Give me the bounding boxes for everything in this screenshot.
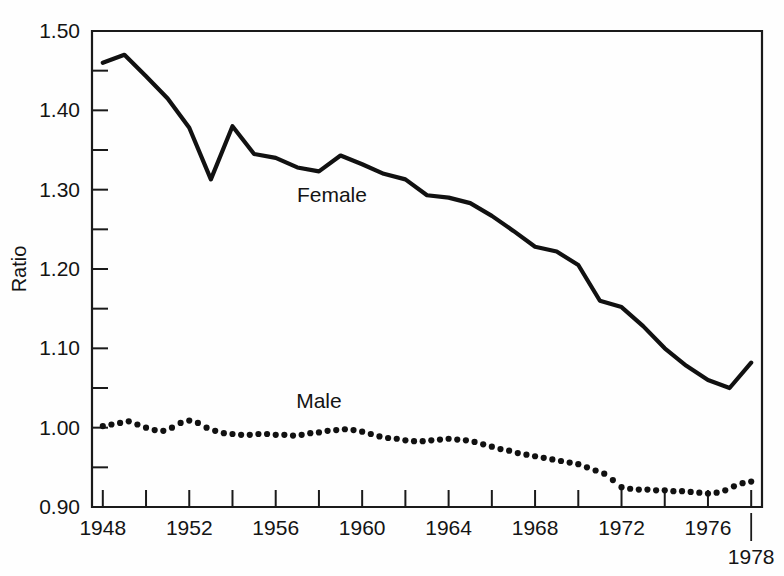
data-point: [446, 436, 452, 442]
data-point: [688, 489, 694, 495]
data-point: [255, 431, 261, 437]
data-point: [722, 487, 728, 493]
data-point: [506, 448, 512, 454]
x-axis-labels: 19481952195619601964196819721976: [79, 516, 731, 539]
data-point: [100, 423, 106, 429]
data-point: [420, 438, 426, 444]
data-point: [290, 433, 296, 439]
data-point: [368, 431, 374, 437]
series-line-female: [103, 55, 751, 388]
data-point: [644, 486, 650, 492]
data-point: [489, 444, 495, 450]
data-point: [748, 479, 754, 485]
x-tick-label: 1960: [339, 516, 386, 539]
data-point: [454, 436, 460, 442]
data-point: [299, 432, 305, 438]
x-tick-label: 1952: [166, 516, 213, 539]
data-point: [662, 487, 668, 493]
series-annotations: FemaleMale: [296, 183, 367, 412]
data-point: [376, 433, 382, 439]
data-point: [731, 483, 737, 489]
data-point: [714, 490, 720, 496]
series-annotation-female: Female: [297, 183, 367, 206]
data-point: [186, 417, 192, 423]
data-point: [195, 420, 201, 426]
data-point: [307, 430, 313, 436]
data-point: [497, 446, 503, 452]
data-series-layer: [100, 55, 755, 497]
data-point: [394, 436, 400, 442]
series-annotation-male: Male: [296, 389, 342, 412]
x-tick-label: 1976: [685, 516, 732, 539]
data-point: [169, 425, 175, 431]
data-point: [532, 453, 538, 459]
y-tick-label: 0.90: [39, 495, 80, 518]
data-point: [705, 490, 711, 496]
axis-frame: [92, 31, 762, 507]
data-point: [428, 437, 434, 443]
data-point: [567, 459, 573, 465]
data-point: [316, 429, 322, 435]
data-point: [739, 480, 745, 486]
data-point: [549, 456, 555, 462]
data-point: [523, 452, 529, 458]
data-point: [618, 484, 624, 490]
data-point: [584, 464, 590, 470]
x-tick-label: 1948: [79, 516, 126, 539]
y-tick-label: 1.20: [39, 257, 80, 280]
data-point: [627, 486, 633, 492]
ratio-line-chart: 0.901.001.101.201.301.401.50 19481952195…: [0, 0, 784, 576]
y-tick-label: 1.30: [39, 178, 80, 201]
data-point: [679, 488, 685, 494]
data-point: [696, 490, 702, 496]
data-point: [558, 458, 564, 464]
data-point: [134, 421, 140, 427]
data-point: [402, 437, 408, 443]
data-point: [117, 420, 123, 426]
data-point: [160, 428, 166, 434]
y-tick-label: 1.40: [39, 98, 80, 121]
data-point: [653, 487, 659, 493]
x-axis-outer-label: 1978: [728, 513, 775, 568]
data-point: [411, 438, 417, 444]
x-outer-label: 1978: [728, 545, 775, 568]
data-point: [247, 432, 253, 438]
data-point: [350, 427, 356, 433]
data-point: [342, 426, 348, 432]
x-tick-label: 1968: [512, 516, 559, 539]
data-point: [212, 428, 218, 434]
data-point: [203, 425, 209, 431]
series-dots-male: [100, 417, 755, 496]
data-point: [471, 439, 477, 445]
data-point: [515, 450, 521, 456]
data-point: [333, 427, 339, 433]
data-point: [636, 486, 642, 492]
data-point: [601, 471, 607, 477]
data-point: [108, 421, 114, 427]
chart-page: 0.901.001.101.201.301.401.50 19481952195…: [0, 0, 784, 576]
data-point: [541, 455, 547, 461]
y-axis-title: Ratio: [8, 246, 30, 293]
data-point: [273, 432, 279, 438]
data-point: [264, 431, 270, 437]
data-point: [359, 429, 365, 435]
data-point: [178, 420, 184, 426]
data-point: [126, 418, 132, 424]
y-axis-labels: 0.901.001.101.201.301.401.50: [39, 19, 80, 518]
x-tick-label: 1956: [252, 516, 299, 539]
data-point: [281, 432, 287, 438]
data-point: [385, 435, 391, 441]
data-point: [592, 467, 598, 473]
data-point: [221, 430, 227, 436]
data-point: [238, 432, 244, 438]
y-tick-label: 1.10: [39, 336, 80, 359]
y-tick-label: 1.00: [39, 416, 80, 439]
data-point: [670, 488, 676, 494]
y-tick-label: 1.50: [39, 19, 80, 42]
data-point: [437, 436, 443, 442]
data-point: [229, 431, 235, 437]
x-tick-label: 1964: [425, 516, 472, 539]
data-point: [575, 461, 581, 467]
data-point: [480, 441, 486, 447]
data-point: [463, 437, 469, 443]
